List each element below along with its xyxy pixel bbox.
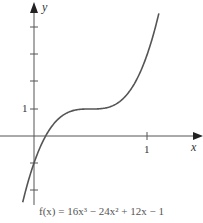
x-tick-label-1: 1	[144, 143, 150, 155]
x-axis-arrow-icon	[193, 132, 203, 140]
y-axis-label: y	[42, 0, 47, 15]
y-tick-label-1: 1	[22, 102, 28, 114]
function-caption: f(x) = 16x³ − 24x² + 12x − 1	[0, 205, 203, 217]
function-curve	[23, 13, 159, 202]
y-axis-arrow-icon	[30, 2, 38, 13]
x-axis-label: x	[191, 140, 196, 155]
function-plot	[0, 0, 203, 223]
